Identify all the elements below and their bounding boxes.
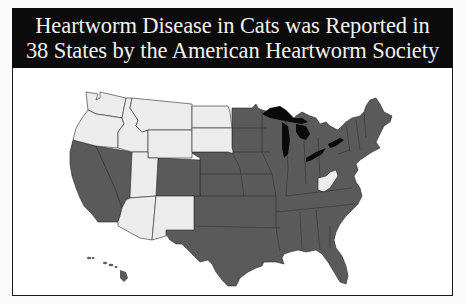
state-utah [130,152,158,198]
state-colorado [156,158,200,196]
state-wyoming [148,130,192,158]
state-montana [130,98,192,132]
state-south-dakota [192,128,234,154]
us-heartworm-map [0,0,467,304]
state-hawaii [87,257,128,282]
state-north-dakota [192,106,232,128]
